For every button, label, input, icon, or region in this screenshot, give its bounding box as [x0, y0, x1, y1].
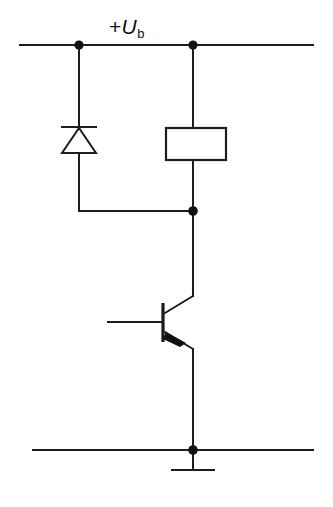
supply-symbol: U [121, 15, 136, 38]
collector-diagonal-wire [165, 296, 193, 313]
diode-anode-triangle [62, 128, 96, 153]
supply-sign: + [109, 15, 121, 38]
junction-dot-ground [188, 445, 198, 455]
junction-dot-supply-coil [188, 40, 197, 49]
supply-voltage-label: +Ub [109, 16, 144, 37]
schematic-canvas: +Ub [0, 0, 333, 507]
junction-dot-supply-diode [74, 40, 83, 49]
supply-subscript: b [137, 26, 144, 41]
circuit-schematic [0, 0, 333, 507]
emitter-arrow-icon [163, 332, 186, 347]
relay-coil-body [166, 128, 226, 160]
junction-dot-collector [188, 206, 198, 216]
